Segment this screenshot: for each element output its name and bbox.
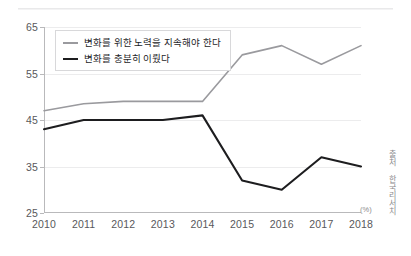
- series-line: [44, 115, 361, 189]
- y-axis-tick: [40, 74, 44, 75]
- y-axis-tick-label: 55: [12, 68, 38, 80]
- x-axis-tick-label: 2015: [220, 218, 264, 230]
- y-axis-tick: [40, 167, 44, 168]
- y-axis-tick-label: 45: [12, 114, 38, 126]
- x-axis-labels: 201020112012201320142015201620172018: [44, 218, 361, 234]
- x-axis-tick-label: 2016: [260, 218, 304, 230]
- legend-label: 변화를 위한 노력을 지속해야 한다: [84, 38, 221, 48]
- x-axis-tick-label: 2017: [299, 218, 343, 230]
- chart-legend: 변화를 위한 노력을 지속해야 한다 변화를 충분히 이뤘다: [55, 30, 231, 71]
- y-axis-tick-label: 65: [12, 21, 38, 33]
- x-axis-tick-label: 2013: [141, 218, 185, 230]
- x-axis-tick-label: 2011: [62, 218, 106, 230]
- legend-line-swatch-icon: [63, 58, 78, 60]
- y-axis-tick-label: 35: [12, 161, 38, 173]
- chart-screenshot: 2535455565 20102011201220132014201520162…: [0, 0, 411, 256]
- legend-item: 변화를 위한 노력을 지속해야 한다: [63, 36, 221, 49]
- source-label: 출처 한국리서치: [386, 150, 397, 215]
- x-axis-tick-label: 2012: [101, 218, 145, 230]
- x-axis-tick-label: 2014: [181, 218, 225, 230]
- top-divider: [18, 8, 393, 10]
- y-axis-labels: 2535455565: [0, 27, 38, 213]
- legend-item: 변화를 충분히 이뤘다: [63, 52, 221, 65]
- y-axis-tick: [40, 27, 44, 28]
- x-axis-tick-label: 2010: [22, 218, 66, 230]
- unit-label: (%): [360, 205, 372, 214]
- y-axis-tick: [40, 213, 44, 214]
- legend-label: 변화를 충분히 이뤘다: [84, 54, 170, 64]
- x-axis-tick-label: 2018: [339, 218, 383, 230]
- y-axis-tick: [40, 120, 44, 121]
- legend-line-swatch-icon: [63, 42, 78, 44]
